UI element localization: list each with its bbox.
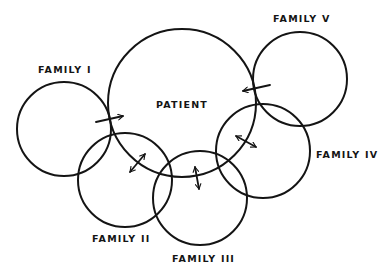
family-1-label: FAMILY I [38,64,92,75]
family-4-circle [216,104,310,198]
arrow-family-3-patient [195,167,199,189]
family-5-label: FAMILY V [273,13,330,24]
family-patient-diagram: PATIENT FAMILY I FAMILY II FAMILY III FA… [0,0,389,269]
family-1-circle [17,82,111,176]
family-5-circle [253,32,347,126]
arrow-family-5-to-patient [243,85,270,91]
family-3-label: FAMILY III [172,253,235,264]
arrow-family-4-patient [236,136,256,147]
family-2-circle [78,133,172,227]
family-2-label: FAMILY II [92,233,150,244]
family-3-circle [153,151,247,245]
patient-label: PATIENT [156,99,208,110]
family-4-label: FAMILY IV [316,149,378,160]
